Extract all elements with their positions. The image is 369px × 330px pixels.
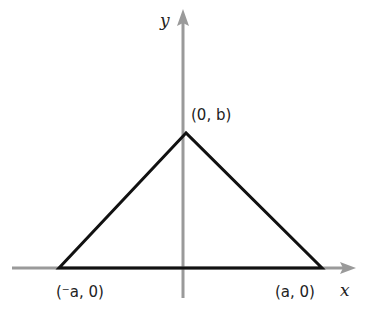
- y-axis-label: y: [160, 12, 170, 29]
- x-axis-label: x: [340, 282, 350, 299]
- y-axis: [177, 9, 189, 298]
- diagram-canvas: [0, 0, 369, 330]
- right-vertex-label: (a, 0): [275, 285, 315, 300]
- left-vertex-label: (⁻a, 0): [56, 285, 104, 300]
- apex-vertex-label: (0, b): [191, 108, 231, 123]
- triangle: [59, 133, 322, 268]
